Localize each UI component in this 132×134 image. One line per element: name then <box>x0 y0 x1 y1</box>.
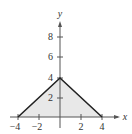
y-tick-label: 4 <box>48 72 53 83</box>
x-tick-label: 2 <box>79 121 84 132</box>
graph: −4 −2 2 4 2 4 6 8 x y <box>0 0 132 134</box>
y-axis-arrow-icon <box>58 21 62 27</box>
y-tick-label: 6 <box>48 51 53 62</box>
y-tick-label: 2 <box>48 92 53 103</box>
x-tick-label: −4 <box>10 121 21 132</box>
x-axis-label: x <box>122 111 128 122</box>
x-tick-label: −2 <box>32 121 43 132</box>
x-tick-label: 4 <box>100 121 105 132</box>
y-tick-label: 8 <box>48 31 53 42</box>
x-axis-arrow-icon <box>114 115 120 119</box>
y-axis-label: y <box>57 8 63 19</box>
